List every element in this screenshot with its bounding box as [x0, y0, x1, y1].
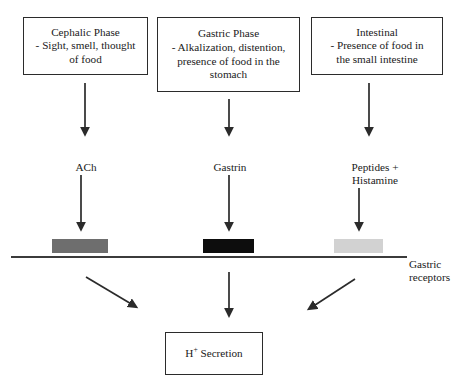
mediator-gastrin-text: Gastrin: [214, 161, 247, 173]
receptor-bar-ach: [52, 239, 108, 253]
mediator-ach-text: ACh: [75, 161, 96, 173]
phase-box-gastric-text: Gastric Phase - Alkalization, distention…: [162, 27, 295, 82]
receptor-bar-gastrin: [203, 239, 254, 253]
phase-box-intestinal-text: Intestinal - Presence of food in the sma…: [316, 26, 438, 67]
mediator-label-gastrin: Gastrin: [190, 147, 270, 174]
output-box-text: H+ Secretion: [170, 347, 258, 361]
phase-box-cephalic: Cephalic Phase - Sight, smell, thought o…: [23, 17, 148, 75]
gastric-receptors-label: Gastric receptors: [409, 244, 467, 285]
mediator-label-peptides-histamine: Peptides + Histamine: [330, 147, 420, 188]
arrow-right-to-secretion: [312, 279, 355, 307]
phase-box-gastric: Gastric Phase - Alkalization, distention…: [157, 17, 300, 92]
receptor-bar-histamine: [334, 239, 383, 253]
phase-box-cephalic-text: Cephalic Phase - Sight, smell, thought o…: [28, 26, 143, 67]
mediator-label-ach: ACh: [46, 147, 126, 174]
membrane-line: [11, 256, 407, 258]
arrow-left-to-secretion: [86, 277, 133, 305]
output-box-h-secretion: H+ Secretion: [165, 332, 263, 375]
gastric-receptors-text: Gastric receptors: [409, 258, 450, 284]
diagram-canvas: Cephalic Phase - Sight, smell, thought o…: [0, 0, 467, 389]
mediator-peptides-histamine-text: Peptides + Histamine: [351, 161, 398, 187]
secretion-word: Secretion: [198, 347, 243, 359]
phase-box-intestinal: Intestinal - Presence of food in the sma…: [311, 17, 443, 75]
